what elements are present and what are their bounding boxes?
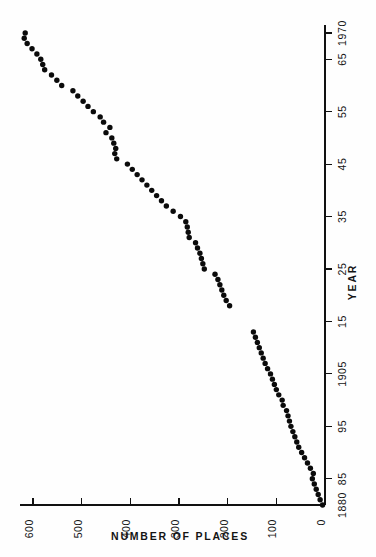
data-point (139, 177, 144, 182)
scatter-plot-canvas: 6005004003002001000197065554535251519059… (0, 0, 376, 557)
y-tick-label: 35 (336, 210, 348, 223)
data-point (187, 235, 192, 240)
data-point (42, 67, 47, 72)
data-point (186, 230, 191, 235)
data-point (197, 251, 202, 256)
data-point (144, 182, 149, 187)
x-axis-title: NUMBER OF PLACES (111, 530, 249, 542)
data-point (314, 487, 319, 492)
data-point (310, 476, 315, 481)
y-tick-label: 95 (336, 420, 348, 433)
data-point (91, 109, 96, 114)
data-point (265, 366, 270, 371)
data-point (215, 277, 220, 282)
y-tick-label: 85 (336, 472, 348, 485)
data-point (183, 219, 188, 224)
data-point (159, 198, 164, 203)
data-point (253, 334, 258, 339)
data-point (101, 119, 106, 124)
data-point (24, 41, 29, 46)
data-point (290, 429, 295, 434)
data-point (251, 329, 256, 334)
data-point (134, 172, 139, 177)
data-point (80, 98, 85, 103)
ticks-group: 6005004003002001000197065554535251519059… (23, 20, 348, 538)
chart-figure: 6005004003002001000197065554535251519059… (0, 0, 376, 557)
data-point (178, 214, 183, 219)
data-point (287, 418, 292, 423)
data-point (199, 256, 204, 261)
data-point (274, 387, 279, 392)
x-tick-label: 600 (23, 519, 35, 538)
x-tick-label: 0 (315, 519, 327, 525)
data-point (103, 130, 108, 135)
data-point (109, 135, 114, 140)
data-point (34, 51, 39, 56)
y-tick-label: 1880 (336, 492, 348, 518)
data-point (288, 424, 293, 429)
data-point (125, 161, 130, 166)
data-point (149, 188, 154, 193)
x-tick-label: 100 (266, 519, 278, 538)
data-point (312, 481, 317, 486)
data-point (276, 392, 281, 397)
data-point (112, 151, 117, 156)
data-point (221, 293, 226, 298)
data-point (40, 62, 45, 67)
data-point (255, 340, 260, 345)
data-point (59, 83, 64, 88)
data-point (97, 114, 102, 119)
data-point (294, 439, 299, 444)
data-point (272, 382, 277, 387)
data-points-group (22, 30, 326, 507)
data-point (305, 460, 310, 465)
data-point (200, 261, 205, 266)
data-point (164, 203, 169, 208)
data-point (257, 345, 262, 350)
data-point (317, 497, 322, 502)
data-point (284, 408, 289, 413)
data-point (185, 224, 190, 229)
data-point (262, 361, 267, 366)
y-axis-title: YEAR (346, 264, 358, 300)
data-point (219, 287, 224, 292)
data-point (85, 104, 90, 109)
y-tick-label: 1905 (336, 361, 348, 387)
data-point (195, 245, 200, 250)
data-point (296, 445, 301, 450)
data-point (302, 455, 307, 460)
data-point (154, 193, 159, 198)
data-point (308, 466, 313, 471)
data-point (299, 450, 304, 455)
data-point (279, 397, 284, 402)
data-point (202, 266, 207, 271)
data-point (217, 282, 222, 287)
data-point (311, 471, 316, 476)
data-point (23, 30, 28, 35)
data-point (320, 502, 325, 507)
data-point (49, 72, 54, 77)
y-tick-label: 65 (336, 53, 348, 66)
axes-group (20, 25, 325, 505)
data-point (38, 57, 43, 62)
data-point (227, 303, 232, 308)
data-point (114, 156, 119, 161)
data-point (54, 78, 59, 83)
data-point (70, 88, 75, 93)
data-point (224, 298, 229, 303)
data-point (280, 403, 285, 408)
data-point (113, 146, 118, 151)
y-tick-label: 55 (336, 105, 348, 118)
data-point (22, 36, 27, 41)
data-point (259, 350, 264, 355)
data-point (285, 413, 290, 418)
data-point (130, 167, 135, 172)
data-point (212, 272, 217, 277)
data-point (193, 240, 198, 245)
data-point (107, 125, 112, 130)
y-tick-label: 15 (336, 315, 348, 328)
y-tick-label: 1970 (336, 20, 348, 46)
data-point (315, 492, 320, 497)
data-point (170, 209, 175, 214)
data-point (270, 376, 275, 381)
